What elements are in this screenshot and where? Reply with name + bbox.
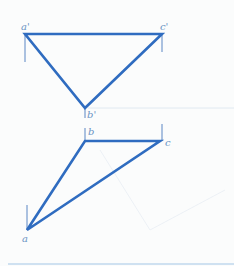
- label-a-prime: a': [21, 22, 30, 32]
- projection-diagram: a' c' b' b c a: [0, 0, 234, 266]
- label-a: a: [22, 234, 28, 244]
- label-c-prime: c': [160, 22, 168, 32]
- label-c: c: [165, 138, 171, 148]
- construction-lines: [88, 108, 234, 230]
- construction-line-faint: [150, 190, 225, 230]
- diagram-svg: [0, 0, 234, 266]
- construction-line-faint: [100, 150, 150, 230]
- label-b: b: [88, 127, 94, 137]
- label-b-prime: b': [87, 110, 96, 120]
- triangle-front-view: [25, 34, 162, 108]
- triangle-top-view: [27, 141, 160, 230]
